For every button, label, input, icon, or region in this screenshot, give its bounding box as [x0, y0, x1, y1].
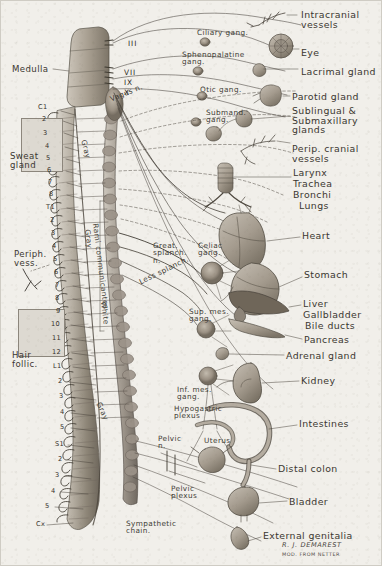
anatomical-artwork — [1, 1, 382, 566]
hair-follicle-inset — [18, 309, 65, 357]
sweat-gland-inset — [21, 118, 63, 172]
autonomic-nervous-system-figure: MedullaSweat glandPeriph. vess.Hair foll… — [0, 0, 382, 566]
